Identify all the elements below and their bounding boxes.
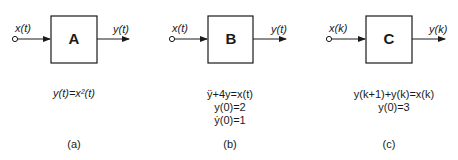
block-c-input-label: x(k) [329,22,347,34]
diagram: x(t) A y(t) y(t)=x²(t) (a) x(t) B y(t) ÿ… [0,0,458,160]
block-c-output-label: y(k) [429,23,447,35]
block-b-output-label: y(t) [271,23,287,35]
block-b-name: B [208,30,254,47]
block-b-input-label: x(t) [172,22,188,34]
block-c-name: C [366,30,412,47]
block-a-input-label: x(t) [15,22,31,34]
block-b-equation-2: y(0)=2 [190,101,270,113]
block-c-equation-2: y(0)=3 [344,101,444,113]
caption-b: (b) [210,138,250,150]
block-c-equation-1: y(k+1)+y(k)=x(k) [344,88,444,100]
diagram-lines [0,0,458,160]
block-b-equation-1: ÿ+4y=x(t) [190,88,270,100]
block-a-output-label: y(t) [113,23,129,35]
block-a-name: A [51,30,97,47]
caption-a: (a) [54,138,94,150]
block-a-equation: y(t)=x²(t) [44,87,104,99]
caption-c: (c) [369,138,409,150]
block-b-equation-3: ẏ(0)=1 [190,114,270,126]
